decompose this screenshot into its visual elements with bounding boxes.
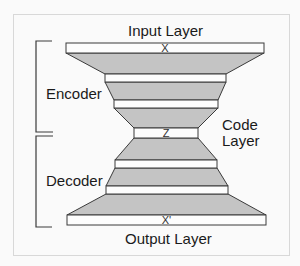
decoder-hidden-layer-2: [106, 186, 228, 194]
decoder-hidden-layer-1: [115, 160, 217, 168]
encoder-connection-3: [114, 108, 218, 128]
output-tag: X': [67, 215, 266, 226]
input-tag: X: [66, 43, 264, 54]
output-layer-label: Output Layer: [125, 231, 212, 246]
encoder-hidden-layer-2: [114, 100, 218, 108]
code-layer-label-line2: Layer: [222, 133, 260, 148]
encoder-label: Encoder: [46, 86, 102, 101]
decoder-label: Decoder: [46, 173, 103, 188]
autoencoder-diagram: Input Layer X Encoder Z Code Layer Decod…: [0, 0, 300, 266]
encoder-hidden-layer-1: [105, 74, 226, 82]
code-layer-label-line1: Code: [222, 117, 258, 132]
encoder-connection-2: [105, 82, 226, 100]
code-tag: Z: [134, 128, 198, 139]
decoder-connection-3: [67, 194, 266, 215]
encoder-connection-1: [66, 53, 264, 74]
decoder-connection-1: [115, 138, 217, 160]
input-layer-label: Input Layer: [128, 23, 203, 38]
decoder-connection-2: [106, 168, 228, 186]
